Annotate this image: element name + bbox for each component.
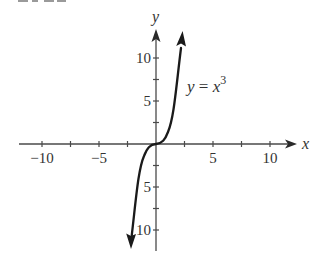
x-tick-label: 10 — [263, 150, 278, 166]
y-axis-label: y — [150, 8, 160, 26]
cubic-function-graph: −10 −5 5 10 10 5 5 10 x y y = x3 — [0, 0, 326, 254]
equation-label: y = x3 — [185, 73, 226, 96]
x-tick-label: −5 — [91, 150, 107, 166]
y-tick-label: 5 — [144, 93, 152, 109]
x-tick-label: 5 — [209, 150, 217, 166]
curve-top-arrow-icon — [176, 31, 186, 47]
y-tick-label: 10 — [136, 50, 151, 66]
y-tick-label: 10 — [136, 222, 151, 238]
equation-lhs: y — [185, 77, 195, 96]
x-axis-label: x — [301, 135, 309, 152]
plot-canvas: −10 −5 5 10 10 5 5 10 x y y = x3 — [0, 0, 326, 254]
y-tick-label: 5 — [144, 179, 152, 195]
x-tick-labels: −10 −5 5 10 — [30, 150, 277, 166]
equation-equals: = — [195, 77, 213, 96]
equation-exponent: 3 — [220, 73, 226, 87]
cropped-text-fragment — [18, 0, 66, 2]
x-tick-label: −10 — [30, 150, 53, 166]
